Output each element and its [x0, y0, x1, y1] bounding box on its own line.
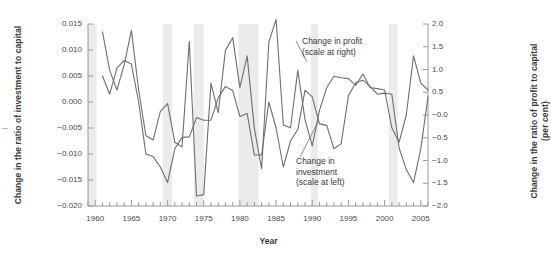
right-tick-label: 2.0 — [432, 19, 472, 28]
x-tick-label: 2005 — [401, 214, 441, 223]
right-tick-label: 1.5 — [432, 42, 472, 51]
recession-band — [194, 24, 204, 206]
right-tick-label: −1.0 — [432, 156, 472, 165]
x-tick-label: 1965 — [111, 214, 151, 223]
left-tick-label: 0.010 — [42, 45, 82, 54]
left-tick-label: −0.005 — [42, 123, 82, 132]
x-tick-label: 1970 — [148, 214, 188, 223]
x-tick-label: 1985 — [256, 214, 296, 223]
right-tick-label: −0.0 — [432, 110, 472, 119]
left-tick-label: −0.020 — [42, 201, 82, 210]
right-tick-label: −0.5 — [432, 133, 472, 142]
right-tick-label: −1.5 — [432, 178, 472, 187]
recession-band — [389, 24, 398, 206]
recession-band — [163, 24, 172, 206]
left-tick-label: 0.015 — [42, 19, 82, 28]
left-tick-label: 0.005 — [42, 71, 82, 80]
right-tick-label: 0.5 — [432, 87, 472, 96]
x-tick-label: 1980 — [220, 214, 260, 223]
x-tick-label: 1990 — [292, 214, 332, 223]
left-tick-label: −0.010 — [42, 149, 82, 158]
left-tick-label: 0.000 — [42, 97, 82, 106]
right-tick-label: 1.0 — [432, 65, 472, 74]
recession-band — [238, 24, 258, 206]
recession-band — [88, 24, 97, 206]
x-tick-label: 1975 — [184, 214, 224, 223]
x-tick-label: 1995 — [328, 214, 368, 223]
x-tick-label: 1960 — [75, 214, 115, 223]
right-tick-label: −2.0 — [432, 201, 472, 210]
profit-annotation: Change in profit (scale at right) — [302, 36, 362, 57]
investment-annotation: Change in investment (scale at left) — [296, 156, 345, 188]
series-line-profit — [102, 19, 428, 196]
x-tick-label: 2000 — [365, 214, 405, 223]
left-tick-label: −0.015 — [42, 175, 82, 184]
series-line-investment — [102, 60, 428, 182]
